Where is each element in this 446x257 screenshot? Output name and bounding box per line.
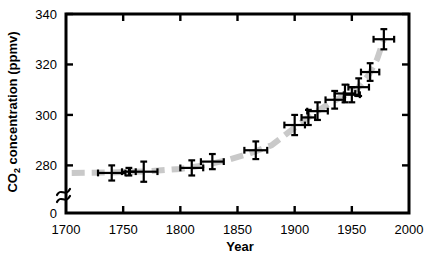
x-tick-label: 1900 — [280, 222, 309, 237]
x-tick-label: 1700 — [52, 222, 81, 237]
data-points-group — [98, 29, 394, 182]
y-axis-title: CO2 concentration (ppmv) — [5, 31, 22, 192]
y-tick-label: 320 — [35, 57, 57, 72]
svg-text:CO2 concentration (ppmv): CO2 concentration (ppmv) — [5, 31, 22, 192]
data-point-error-bar — [244, 141, 267, 159]
data-point-error-bar — [361, 63, 379, 81]
svg-text:Year: Year — [226, 239, 253, 254]
x-axis-title: Year — [226, 239, 253, 254]
plot-frame — [66, 14, 409, 213]
x-axis-tick-labels: 1700175018001850190019502000 — [52, 222, 424, 237]
x-tick-label: 1950 — [337, 222, 366, 237]
x-tick-label: 2000 — [395, 222, 424, 237]
x-tick-label: 1800 — [166, 222, 195, 237]
x-tick-label: 1850 — [223, 222, 252, 237]
y-axis-tick-labels: 0280300320340 — [35, 7, 57, 221]
y-tick-label: 300 — [35, 108, 57, 123]
data-point-error-bar — [180, 160, 203, 175]
y-axis-break-symbol — [57, 189, 70, 202]
chart-canvas: 0280300320340 17001750180018501900195020… — [0, 0, 446, 257]
co2-concentration-figure: 0280300320340 17001750180018501900195020… — [0, 0, 446, 257]
y-tick-label: 340 — [35, 7, 57, 22]
data-point-error-bar — [130, 162, 157, 182]
x-tick-label: 1750 — [109, 222, 138, 237]
trend-line — [72, 39, 384, 173]
data-point-error-bar — [374, 29, 395, 49]
y-tick-label: 0 — [50, 206, 57, 221]
y-tick-label: 280 — [35, 158, 57, 173]
